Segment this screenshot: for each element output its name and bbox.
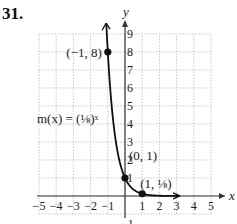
x-tick-label: 1 — [139, 199, 145, 213]
x-tick-label: −5 — [33, 199, 46, 213]
y-axis-label: y — [121, 4, 129, 19]
x-tick-label: 4 — [191, 199, 197, 213]
y-tick-label: 4 — [127, 117, 133, 131]
function-curve — [106, 23, 180, 196]
data-point — [104, 48, 111, 55]
y-tick-label: 7 — [127, 63, 133, 77]
exponential-graph: xy−5−4−3−2−112345−1123456789(−1, 8)(0, 1… — [0, 0, 237, 224]
point-label: (1, ⅛) — [140, 176, 171, 191]
y-tick-label: 3 — [127, 135, 133, 149]
y-tick-label: 5 — [127, 99, 133, 113]
y-tick-label: 6 — [127, 81, 133, 95]
point-label: (−1, 8) — [66, 45, 102, 60]
y-axis-arrow-icon — [122, 20, 128, 27]
x-tick-label: 2 — [156, 199, 162, 213]
x-axis-arrow-icon — [219, 193, 225, 199]
data-point — [139, 190, 146, 197]
x-tick-label: −3 — [67, 199, 80, 213]
y-tick-label: 9 — [127, 27, 133, 41]
x-tick-label: 5 — [208, 199, 214, 213]
y-tick-label: −1 — [121, 217, 134, 224]
x-tick-label: −4 — [50, 199, 63, 213]
x-tick-label: 3 — [174, 199, 180, 213]
x-tick-label: −2 — [84, 199, 97, 213]
x-axis-label: x — [228, 188, 235, 203]
point-label: (0, 1) — [129, 148, 157, 163]
function-label: m(x) = (⅛)ˣ — [37, 111, 99, 126]
data-point — [121, 174, 128, 181]
x-tick-label: −1 — [101, 199, 114, 213]
y-tick-label: 8 — [127, 45, 133, 59]
